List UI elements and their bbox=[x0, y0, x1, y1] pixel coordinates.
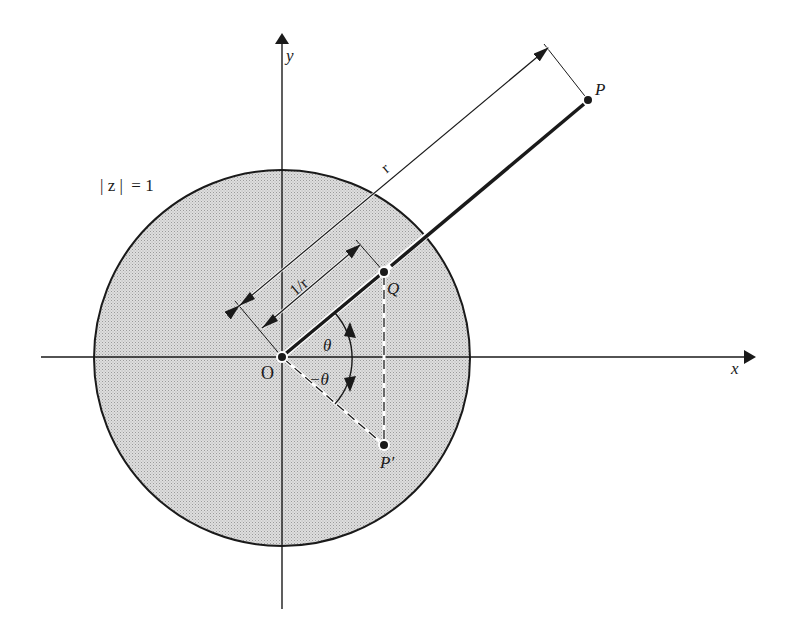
point-q-label: Q bbox=[387, 279, 399, 298]
point-p bbox=[584, 96, 592, 104]
extension-line-p bbox=[544, 44, 588, 100]
origin-label: O bbox=[261, 363, 274, 383]
dim-r-label: r bbox=[378, 159, 394, 176]
point-p-prime-label: P′ bbox=[379, 453, 394, 472]
circle-label: | z | = 1 bbox=[100, 176, 154, 195]
point-p-prime bbox=[380, 441, 388, 449]
angle-theta-label: θ bbox=[323, 336, 331, 355]
point-p-label: P bbox=[594, 80, 605, 99]
point-q bbox=[380, 268, 388, 276]
x-axis-label: x bbox=[730, 359, 739, 378]
angle-neg-theta-label: −θ bbox=[309, 370, 329, 389]
inversion-diagram: y x | z | = 1 O P Q P′ r 1/r θ −θ bbox=[0, 0, 796, 639]
segment-qp bbox=[391, 104, 584, 266]
y-axis-label: y bbox=[284, 46, 294, 65]
y-axis-arrow-icon bbox=[275, 33, 289, 44]
point-origin bbox=[278, 353, 286, 361]
x-axis-arrow-icon bbox=[744, 350, 756, 364]
